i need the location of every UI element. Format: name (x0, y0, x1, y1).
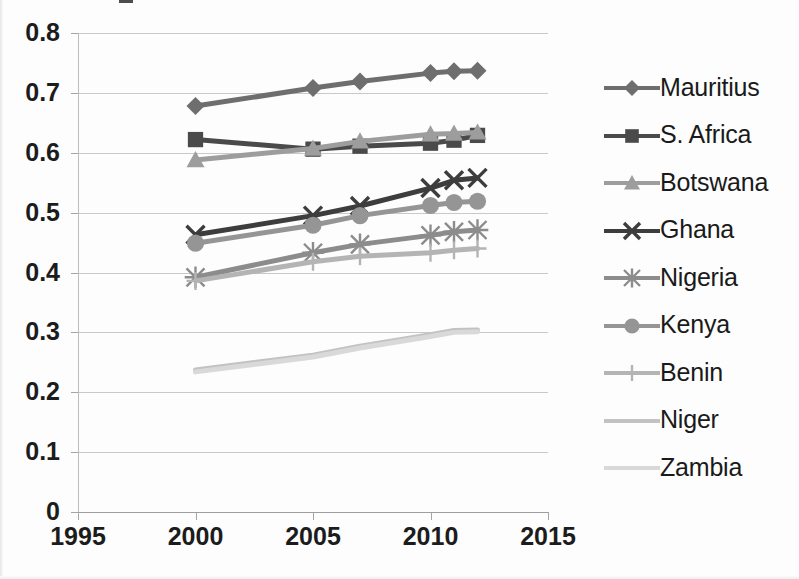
series-botswana (187, 123, 487, 167)
legend-key (604, 170, 660, 194)
legend-key (604, 455, 660, 479)
data-point-diamond-marker (445, 62, 463, 80)
legend-item-nigeria[interactable]: Nigeria (604, 262, 738, 292)
chart-page: 00.10.20.30.40.50.60.70.8 19952000200520… (0, 0, 799, 579)
series-zambia (196, 332, 478, 372)
data-point-diamond-marker (187, 97, 205, 115)
data-point-circle-marker (445, 194, 462, 211)
data-point-diamond-marker (422, 64, 440, 82)
legend-key (604, 265, 660, 289)
line-chart: 00.10.20.30.40.50.60.70.8 19952000200520… (0, 0, 600, 579)
data-point-plus-marker (469, 240, 487, 258)
legend-key (604, 218, 660, 242)
data-point-circle-marker (422, 197, 439, 214)
data-point-asterisk-marker (443, 221, 465, 243)
legend-key (604, 360, 660, 384)
legend-key-line (604, 419, 660, 423)
data-point-square-marker (188, 132, 203, 147)
data-point-asterisk-marker (467, 219, 489, 241)
legend-item-label: Benin (660, 358, 723, 387)
legend-item-benin[interactable]: Benin (604, 357, 723, 387)
series-mauritius (187, 62, 487, 115)
legend-item-label: Nigeria (660, 263, 738, 292)
chart-legend: MauritiusS. AfricaBotswanaGhanaNigeriaKe… (604, 72, 799, 502)
legend-item-label: Mauritius (660, 73, 760, 102)
legend-key-diamond-icon (622, 78, 642, 98)
legend-item-ghana[interactable]: Ghana (604, 215, 734, 245)
legend-item-zambia[interactable]: Zambia (604, 452, 742, 482)
legend-key-line (604, 466, 660, 470)
data-point-circle-marker (187, 235, 204, 252)
data-point-plus-marker (422, 244, 440, 262)
legend-item-s-africa[interactable]: S. Africa (604, 120, 751, 150)
data-point-asterisk-marker (420, 225, 442, 247)
data-point-circle-marker (469, 193, 486, 210)
data-point-diamond-marker (469, 62, 487, 80)
legend-key-triangle-icon (622, 173, 642, 193)
data-point-diamond-marker (351, 72, 369, 90)
legend-key-plus-icon (622, 363, 642, 383)
legend-item-label: S. Africa (660, 120, 751, 149)
data-point-circle-marker (304, 217, 321, 234)
legend-key (604, 313, 660, 337)
legend-item-kenya[interactable]: Kenya (604, 310, 730, 340)
series-kenya (187, 193, 486, 252)
legend-item-label: Zambia (660, 453, 742, 482)
data-point-plus-marker (445, 241, 463, 259)
legend-key (604, 75, 660, 99)
legend-item-botswana[interactable]: Botswana (604, 167, 768, 197)
legend-key-cross-icon (622, 221, 642, 241)
legend-item-niger[interactable]: Niger (604, 405, 719, 435)
legend-key-asterisk-icon (622, 268, 642, 288)
legend-item-label: Kenya (660, 310, 730, 339)
legend-item-label: Ghana (660, 215, 734, 244)
legend-key-square-icon (622, 126, 642, 146)
data-point-diamond-marker (304, 79, 322, 97)
legend-item-label: Botswana (660, 168, 768, 197)
legend-key (604, 408, 660, 432)
data-point-circle-marker (351, 207, 368, 224)
legend-key (604, 123, 660, 147)
legend-item-mauritius[interactable]: Mauritius (604, 72, 760, 102)
legend-key-circle-icon (622, 316, 642, 336)
series-line (196, 332, 478, 372)
legend-item-label: Niger (660, 405, 719, 434)
